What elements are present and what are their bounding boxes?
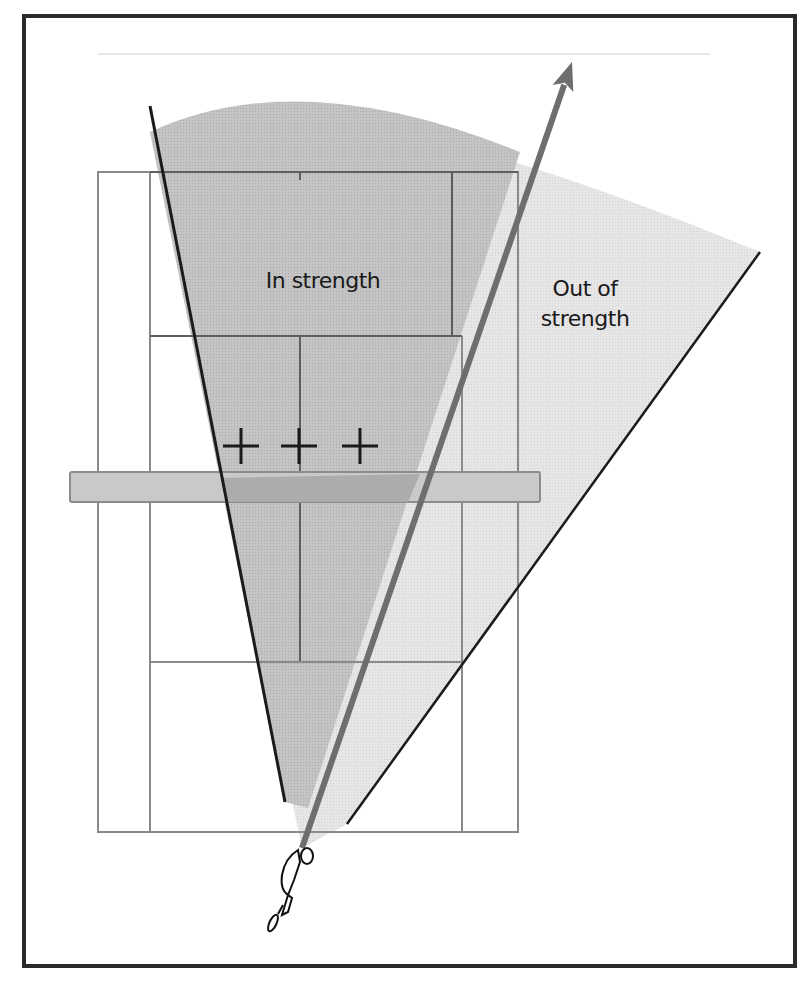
in-strength-label: In strength — [266, 268, 381, 293]
player-figure-icon — [266, 848, 313, 933]
out-of-strength-label-line1: Out of — [552, 276, 619, 301]
badminton-strength-diagram: In strength Out of strength — [0, 0, 809, 983]
out-of-strength-label-line2: strength — [541, 306, 630, 331]
net-band-in-strength-overlap — [221, 474, 420, 502]
